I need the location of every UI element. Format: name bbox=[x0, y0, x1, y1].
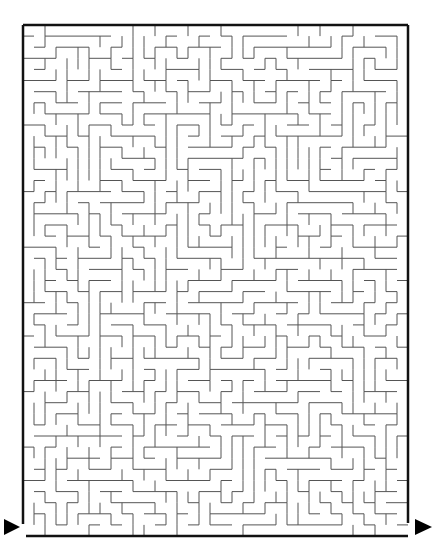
maze-walls bbox=[23, 25, 408, 536]
start-arrow-icon bbox=[4, 519, 20, 535]
maze-board bbox=[0, 0, 439, 555]
end-arrow-icon bbox=[415, 519, 432, 535]
